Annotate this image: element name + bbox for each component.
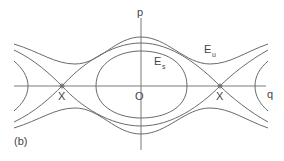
energy-label-stable: E [154,55,161,67]
saddle-label-right: X [216,90,224,102]
energy-label-unbounded-sub: u [212,51,216,58]
panel-label: (b) [14,135,27,147]
energy-label-unbounded: E [204,43,211,55]
origin-label: O [135,90,144,102]
saddle-label-left: X [58,90,66,102]
q-axis-label: q [267,88,273,100]
phase-portrait: p q O X X E s E u (b) [0,0,284,161]
energy-label-stable-sub: s [162,63,166,70]
p-axis-label: p [137,6,143,18]
